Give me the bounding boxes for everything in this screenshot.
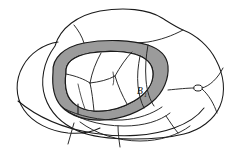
crease-top-left [74,25,84,43]
bottom-lobe-inner-crease [80,122,190,141]
right-boundary-arc-2 [202,68,223,88]
figure-canvas: B 1 [0,0,233,157]
label-b1: B [137,86,143,96]
right-boundary-arc-3 [202,89,217,113]
top-right-crease-group [126,30,183,43]
right-boundary-arc [168,88,194,90]
crease-bottom-mid [118,126,120,147]
right-boundary-arc-group [168,68,223,113]
top-right-crease [126,30,183,43]
label-b1-subscript: 1 [144,92,147,98]
topology-diagram: B 1 [0,0,233,157]
boundary-node-right [194,85,202,91]
